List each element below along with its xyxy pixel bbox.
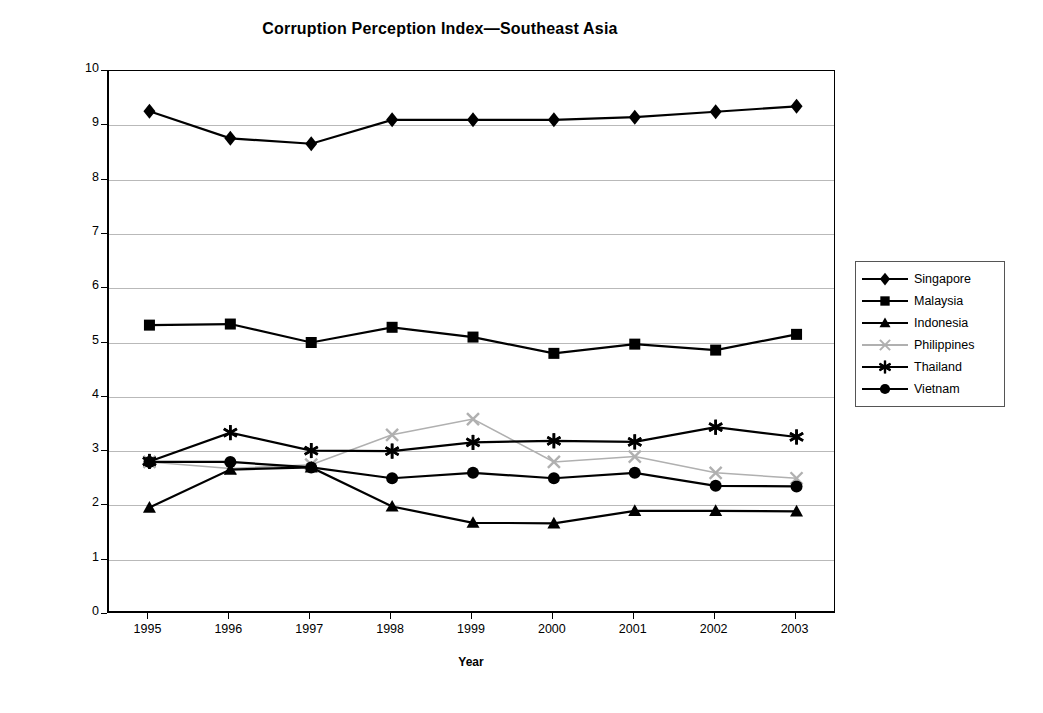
data-point-marker (629, 467, 641, 479)
data-point-marker (306, 337, 317, 348)
y-axis-tick-label: 9 (69, 115, 99, 129)
data-point-marker (143, 104, 155, 119)
series-malaysia (144, 319, 802, 359)
data-point-marker (791, 480, 803, 492)
x-axis-tick-label: 2000 (522, 622, 582, 636)
data-point-marker (225, 319, 236, 330)
legend: SingaporeMalaysiaIndonesiaPhilippinesTha… (855, 261, 1005, 407)
legend-item-thailand[interactable]: Thailand (860, 356, 1000, 378)
data-point-marker (386, 112, 398, 127)
data-point-marker (387, 322, 398, 333)
legend-swatch-circle-icon (860, 379, 910, 399)
data-point-marker (467, 112, 479, 127)
legend-item-singapore[interactable]: Singapore (860, 268, 1000, 290)
y-axis-tick-label: 10 (69, 61, 99, 75)
data-point-marker (224, 131, 236, 146)
data-point-marker (629, 110, 641, 125)
legend-item-malaysia[interactable]: Malaysia (860, 290, 1000, 312)
data-point-marker (710, 104, 722, 119)
series-layer (109, 71, 837, 614)
data-point-marker (710, 480, 722, 492)
data-point-marker (468, 332, 479, 343)
x-axis-tick-label: 2001 (603, 622, 663, 636)
plot-area (107, 70, 835, 613)
legend-swatch-star-icon (860, 357, 910, 377)
legend-swatch-cross-icon (860, 335, 910, 355)
x-axis-tick-label: 1999 (441, 622, 501, 636)
chart-title: Corruption Perception Index—Southeast As… (0, 20, 880, 38)
y-axis-tick-label: 6 (69, 278, 99, 292)
y-axis-tick-label: 8 (69, 170, 99, 184)
legend-swatch-triangle-icon (860, 313, 910, 333)
data-point-marker (305, 136, 317, 151)
series-vietnam (143, 456, 802, 492)
legend-label: Thailand (914, 360, 962, 374)
data-point-marker (305, 461, 317, 473)
data-point-marker (548, 112, 560, 127)
y-axis-tick-label: 2 (69, 495, 99, 509)
data-point-marker (548, 472, 560, 484)
data-point-marker (710, 345, 721, 356)
x-axis-title: Year (107, 655, 835, 669)
legend-item-vietnam[interactable]: Vietnam (860, 378, 1000, 400)
legend-swatch-square-icon (860, 291, 910, 311)
legend-label: Philippines (914, 338, 974, 352)
x-axis-tick-label: 2003 (765, 622, 825, 636)
series-singapore (143, 99, 802, 151)
y-axis-tick-label: 7 (69, 224, 99, 238)
data-point-marker (224, 456, 236, 468)
series-thailand (143, 420, 803, 469)
legend-item-philippines[interactable]: Philippines (860, 334, 1000, 356)
y-axis-tick-mark (101, 613, 107, 614)
data-point-marker (791, 329, 802, 340)
legend-swatch-diamond-icon (860, 269, 910, 289)
data-point-marker (386, 472, 398, 484)
data-point-marker (386, 429, 398, 441)
y-axis-tick-label: 4 (69, 387, 99, 401)
y-axis-tick-label: 1 (69, 550, 99, 564)
y-axis-tick-label: 3 (69, 441, 99, 455)
x-axis-tick-label: 1997 (279, 622, 339, 636)
legend-label: Vietnam (914, 382, 960, 396)
x-axis-tick-label: 1998 (360, 622, 420, 636)
data-point-marker (629, 339, 640, 350)
x-axis-tick-label: 1996 (198, 622, 258, 636)
data-point-marker (144, 320, 155, 331)
data-point-marker (386, 500, 399, 512)
chart-container: Corruption Perception Index—Southeast As… (0, 0, 1043, 713)
data-point-marker (791, 99, 803, 114)
data-point-marker (143, 501, 156, 513)
data-point-marker (143, 456, 155, 468)
data-point-marker (548, 348, 559, 359)
data-point-marker (467, 413, 479, 425)
y-axis-tick-label: 0 (69, 604, 99, 618)
legend-label: Singapore (914, 272, 971, 286)
legend-label: Malaysia (914, 294, 963, 308)
data-point-marker (467, 467, 479, 479)
legend-item-indonesia[interactable]: Indonesia (860, 312, 1000, 334)
legend-label: Indonesia (914, 316, 968, 330)
x-axis-tick-label: 2002 (684, 622, 744, 636)
x-axis-tick-label: 1995 (117, 622, 177, 636)
y-axis-tick-label: 5 (69, 333, 99, 347)
